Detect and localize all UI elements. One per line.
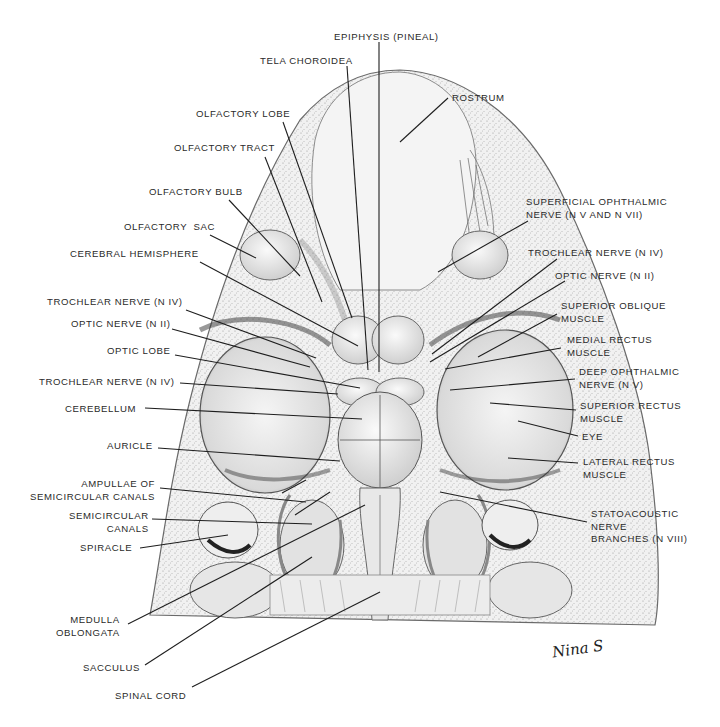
label-optic-lobe: OPTIC LOBE bbox=[107, 345, 171, 358]
label-optic-nerve-left: OPTIC NERVE (N II) bbox=[71, 318, 171, 331]
label-deep-ophthalmic: DEEP OPHTHALMIC NERVE (N V) bbox=[579, 366, 680, 391]
label-auricle: AURICLE bbox=[107, 440, 153, 453]
label-lateral-rectus: LATERAL RECTUS MUSCLE bbox=[583, 456, 675, 481]
label-medial-rectus: MEDIAL RECTUS MUSCLE bbox=[567, 334, 652, 359]
label-olfactory-bulb: OLFACTORY BULB bbox=[149, 186, 243, 199]
label-cerebral-hemisphere: CEREBRAL HEMISPHERE bbox=[70, 248, 199, 261]
label-spiracle: SPIRACLE bbox=[80, 542, 132, 555]
label-spinal-cord: SPINAL CORD bbox=[115, 690, 186, 703]
label-eye: EYE bbox=[582, 431, 603, 444]
label-optic-nerve-right: OPTIC NERVE (N II) bbox=[555, 270, 655, 283]
label-medulla-oblongata: MEDULLA OBLONGATA bbox=[56, 614, 120, 639]
label-trochlear-nerve-left-1: TROCHLEAR NERVE (N IV) bbox=[47, 296, 183, 309]
label-statoacoustic: STATOACOUSTIC NERVE BRANCHES (N VIII) bbox=[591, 508, 688, 546]
label-olfactory-tract: OLFACTORY TRACT bbox=[174, 142, 275, 155]
label-tela-choroidea: TELA CHOROIDEA bbox=[260, 55, 353, 68]
label-semicircular-canals: SEMICIRCULAR CANALS bbox=[69, 510, 149, 535]
label-sacculus: SACCULUS bbox=[83, 662, 140, 675]
label-superficial-ophthalmic: SUPERFICIAL OPHTHALMIC NERVE (N V AND N … bbox=[526, 196, 667, 221]
label-rostrum: ROSTRUM bbox=[452, 92, 505, 105]
label-olfactory-lobe: OLFACTORY LOBE bbox=[196, 108, 290, 121]
label-olfactory-sac: OLFACTORY SAC bbox=[124, 221, 215, 234]
label-trochlear-nerve-left-2: TROCHLEAR NERVE (N IV) bbox=[39, 376, 175, 389]
label-superior-oblique: SUPERIOR OBLIQUE MUSCLE bbox=[561, 300, 666, 325]
label-superior-rectus: SUPERIOR RECTUS MUSCLE bbox=[580, 400, 681, 425]
label-ampullae: AMPULLAE OF SEMICIRCULAR CANALS bbox=[30, 478, 155, 503]
anatomy-figure: EPIPHYSIS (PINEAL)TELA CHOROIDEAOLFACTOR… bbox=[0, 0, 720, 727]
label-epiphysis: EPIPHYSIS (PINEAL) bbox=[334, 31, 439, 44]
label-trochlear-nerve-right: TROCHLEAR NERVE (N IV) bbox=[528, 247, 664, 260]
label-cerebellum: CEREBELLUM bbox=[65, 403, 136, 416]
